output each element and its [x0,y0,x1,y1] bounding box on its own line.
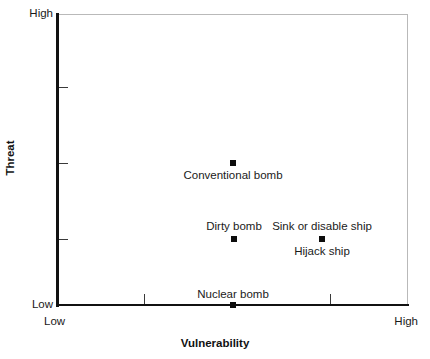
x-axis-high-label: High [360,315,418,328]
y-axis-title: Threat [4,127,16,189]
y-axis-tick [59,87,68,88]
x-axis-tick [144,294,145,304]
data-point-marker [231,236,237,242]
risk-matrix-chart: High Low Low High Threat Vulnerability C… [0,0,430,359]
data-point-marker [230,160,236,166]
data-point-label: Dirty bomb [206,220,262,233]
y-axis-tick [59,163,68,164]
data-point-label: Hijack ship [294,245,350,258]
data-point-marker [319,236,325,242]
x-axis-low-label: Low [44,315,65,328]
y-axis-low-label: Low [0,298,53,311]
data-point-marker [230,302,236,308]
data-point-label: Nuclear bomb [197,288,269,301]
y-axis-high-label: High [0,7,53,20]
data-point-label: Sink or disable ship [272,220,372,233]
x-axis-tick [330,294,331,304]
x-axis-title: Vulnerability [0,337,430,349]
y-axis-line [56,13,59,307]
y-axis-tick [59,239,68,240]
data-point-label: Conventional bomb [183,169,282,182]
